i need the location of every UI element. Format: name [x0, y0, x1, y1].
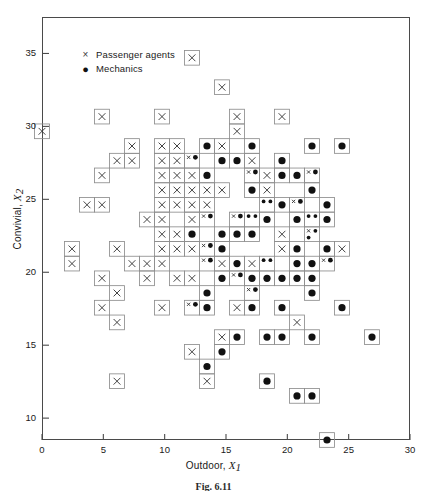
data-cell [305, 227, 320, 242]
data-cell [260, 330, 275, 345]
data-cell [230, 212, 245, 227]
data-cell [170, 197, 185, 212]
data-cell [290, 315, 305, 330]
data-cell [155, 256, 170, 271]
data-cell [320, 433, 335, 448]
data-cell [305, 212, 320, 227]
data-cell [155, 153, 170, 168]
data-cell [275, 168, 290, 183]
x-axis-title-text: Outdoor, [186, 460, 226, 471]
data-cell [215, 271, 230, 286]
data-cell [305, 389, 320, 404]
x-tick-label: 10 [159, 444, 170, 455]
data-cell [185, 300, 200, 315]
plot-canvas [0, 0, 427, 491]
data-cell [185, 50, 200, 65]
data-cell [290, 197, 305, 212]
data-cell [140, 271, 155, 286]
data-cell [185, 242, 200, 257]
data-cell [275, 242, 290, 257]
data-cell [170, 153, 185, 168]
data-cell [245, 183, 260, 198]
data-cell [170, 242, 185, 257]
x-axis-title: Outdoor, X1 [0, 459, 427, 473]
x-tick-label: 20 [282, 444, 293, 455]
y-axis-title-var: X [11, 194, 23, 201]
data-cell [110, 315, 125, 330]
data-cell [155, 183, 170, 198]
data-cell [365, 330, 380, 345]
data-cell [290, 212, 305, 227]
y-axis-title: Convivial, X2 [11, 149, 25, 289]
data-cell [215, 344, 230, 359]
data-cell [305, 286, 320, 301]
data-cell [245, 153, 260, 168]
data-cell [275, 271, 290, 286]
data-cell [230, 271, 245, 286]
data-cell [230, 153, 245, 168]
data-cell [200, 242, 215, 257]
data-cell [305, 168, 320, 183]
data-cell [170, 227, 185, 242]
data-cell [155, 168, 170, 183]
x-axis-ticks [42, 434, 410, 440]
y-tick-label: 35 [6, 47, 36, 58]
data-cell [290, 389, 305, 404]
data-cell [245, 271, 260, 286]
data-cell [215, 330, 230, 345]
data-cell [200, 256, 215, 271]
data-cell [290, 256, 305, 271]
data-cell [245, 300, 260, 315]
data-cell [245, 286, 260, 301]
data-cell [170, 168, 185, 183]
data-cell [320, 197, 335, 212]
data-cell [230, 256, 245, 271]
data-cell [320, 212, 335, 227]
data-cell [245, 168, 260, 183]
data-cell [245, 256, 260, 271]
y-tick-label: 30 [6, 120, 36, 131]
data-cell [335, 300, 350, 315]
data-cell [110, 242, 125, 257]
filled-circle-marker-icon: ● [78, 62, 93, 76]
data-cell [230, 109, 245, 124]
data-cell [65, 242, 80, 257]
data-cell [245, 227, 260, 242]
data-cell [95, 168, 110, 183]
data-cell [260, 197, 275, 212]
y-axis-ticks [42, 53, 49, 418]
data-cell [320, 242, 335, 257]
data-cell [305, 139, 320, 154]
data-cell [245, 212, 260, 227]
data-cell [185, 153, 200, 168]
data-cell [95, 197, 110, 212]
data-cell [185, 212, 200, 227]
data-cell [110, 374, 125, 389]
y-tick-label: 15 [6, 339, 36, 350]
data-cell [260, 212, 275, 227]
x-tick-label: 15 [221, 444, 232, 455]
x-axis-title-sub: 1 [236, 461, 242, 473]
data-cell [200, 139, 215, 154]
cross-marker-icon: × [78, 48, 93, 62]
data-cell [275, 227, 290, 242]
data-cell [155, 242, 170, 257]
data-cell [275, 153, 290, 168]
data-cell [155, 212, 170, 227]
data-cell [290, 271, 305, 286]
data-cell [125, 153, 140, 168]
data-cell [275, 109, 290, 124]
data-cell [335, 139, 350, 154]
data-cell [290, 242, 305, 257]
data-cell [185, 183, 200, 198]
data-cell [185, 197, 200, 212]
data-cell [215, 256, 230, 271]
data-cell [230, 300, 245, 315]
data-cell [260, 271, 275, 286]
data-cell [320, 256, 335, 271]
data-cell [305, 330, 320, 345]
legend-label-mechanics: Mechanics [93, 62, 143, 76]
data-cells-layer [35, 50, 380, 447]
data-cell [155, 109, 170, 124]
data-cell [200, 197, 215, 212]
